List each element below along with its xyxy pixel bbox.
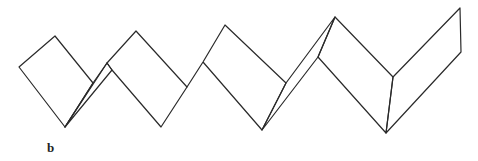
figure-label: b xyxy=(47,140,54,156)
panel-3 xyxy=(187,25,286,130)
folded-strip-diagram xyxy=(0,0,478,161)
panel-4 xyxy=(318,17,393,133)
fold-strip-2 xyxy=(262,17,335,130)
panel-1 xyxy=(19,36,93,127)
fold-strip-1 xyxy=(65,63,112,127)
panel-5 xyxy=(386,8,461,133)
panel-2 xyxy=(107,31,187,127)
